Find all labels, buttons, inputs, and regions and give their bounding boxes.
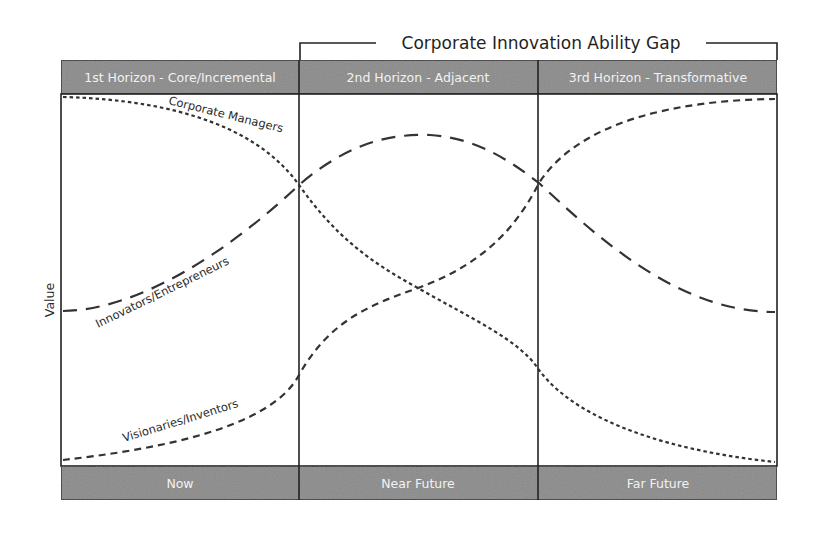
timeframe-now-label: Now [166, 476, 193, 491]
timeframe-footer-band: Now Near Future Far Future [61, 466, 777, 500]
timeframe-far-future-label: Far Future [627, 476, 690, 491]
horizon-2-label: 2nd Horizon - Adjacent [347, 70, 490, 85]
ability-gap-bracket: Corporate Innovation Ability Gap [300, 33, 777, 60]
y-axis-label: Value [42, 283, 57, 318]
horizon-1-label: 1st Horizon - Core/Incremental [84, 70, 276, 85]
ability-gap-title: Corporate Innovation Ability Gap [402, 33, 681, 53]
plot-frame [61, 94, 777, 466]
horizon-3-label: 3rd Horizon - Transformative [569, 70, 748, 85]
timeframe-near-future-label: Near Future [381, 476, 455, 491]
innovation-horizons-diagram: Corporate Innovation Ability Gap 1st Hor… [0, 0, 814, 536]
horizon-header-band: 1st Horizon - Core/Incremental 2nd Horiz… [61, 60, 777, 94]
